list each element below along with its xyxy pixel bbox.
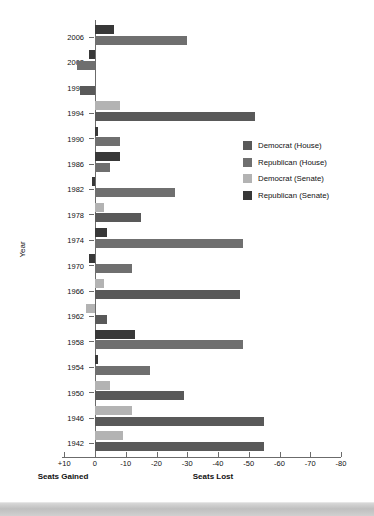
bar-dem_house-1946 <box>95 417 264 426</box>
legend-item: Democrat (Senate) <box>243 173 371 184</box>
x-tick-label: -70 <box>295 459 325 468</box>
bar-dem_house-1950 <box>95 391 184 400</box>
x-axis-line <box>62 457 341 458</box>
bar-dem_senate-1966 <box>95 279 104 288</box>
bar-dem_house-1966 <box>95 290 240 299</box>
y-axis-tick-label: 2006 <box>38 33 84 42</box>
bar-rep_house-1986 <box>95 163 110 172</box>
y-tick <box>89 214 94 215</box>
x-tick-label: -80 <box>326 459 356 468</box>
y-tick <box>89 418 94 419</box>
x-tick <box>218 452 219 457</box>
x-tick <box>157 452 158 457</box>
footer-band <box>0 503 374 516</box>
bar-dem_house-1962 <box>95 315 107 324</box>
legend-item: Republican (House) <box>243 157 371 168</box>
y-axis-tick-label: 1950 <box>38 389 84 398</box>
bar-dem_house-1994 <box>95 112 255 121</box>
bar-rep_house-1990 <box>95 137 120 146</box>
y-axis-tick-label: 1982 <box>38 185 84 194</box>
bar-rep_senate-1970 <box>89 254 95 263</box>
midterm-seat-change-chart: +100-10-20-30-40-50-60-70-80 20062002199… <box>0 0 374 516</box>
bar-rep_senate-2002 <box>89 50 95 59</box>
bar-dem_senate-1962 <box>86 304 95 313</box>
y-tick <box>89 316 94 317</box>
bar-rep_senate-1954 <box>95 355 98 364</box>
bar-rep_house-1958 <box>95 340 243 349</box>
legend: Democrat (House)Republican (House)Democr… <box>243 140 371 206</box>
x-tick-label: -30 <box>172 459 202 468</box>
y-axis-tick-label: 1990 <box>38 135 84 144</box>
bar-rep_senate-2006 <box>95 25 114 34</box>
y-axis-tick-label: 1998 <box>38 84 84 93</box>
seats-gained-note: Seats Gained <box>20 472 106 481</box>
y-tick <box>89 189 94 190</box>
legend-swatch-icon <box>243 141 252 150</box>
y-axis-tick-label: 1962 <box>38 312 84 321</box>
y-axis-tick-label: 1994 <box>38 109 84 118</box>
x-tick-label: 0 <box>80 459 110 468</box>
x-tick <box>126 452 127 457</box>
bar-dem_house-1942 <box>95 442 264 451</box>
y-tick <box>89 341 94 342</box>
x-tick-label: -40 <box>203 459 233 468</box>
y-tick <box>89 37 94 38</box>
y-axis-tick-label: 1986 <box>38 160 84 169</box>
legend-label: Democrat (Senate) <box>258 174 324 183</box>
bar-dem_senate-1946 <box>95 406 132 415</box>
y-axis-tick-label: 1946 <box>38 414 84 423</box>
legend-label: Republican (Senate) <box>258 191 329 200</box>
bar-rep_house-2006 <box>95 36 187 45</box>
bar-dem_senate-1950 <box>95 381 110 390</box>
bar-rep_house-2002 <box>77 61 96 70</box>
legend-swatch-icon <box>243 174 252 183</box>
y-axis-tick-label: 1942 <box>38 439 84 448</box>
bar-dem_house-1978 <box>95 213 141 222</box>
y-axis-tick-label: 1958 <box>38 338 84 347</box>
legend-swatch-icon <box>243 158 252 167</box>
y-tick <box>89 240 94 241</box>
x-tick-label: +10 <box>49 459 79 468</box>
bar-dem_house-1998 <box>80 86 95 95</box>
y-axis-tick-label: 1978 <box>38 211 84 220</box>
legend-item: Republican (Senate) <box>243 190 371 201</box>
y-axis-tick-label: 1970 <box>38 262 84 271</box>
y-axis-title: Year <box>18 220 27 280</box>
bar-rep_house-1982 <box>95 188 175 197</box>
bar-rep_house-1970 <box>95 264 132 273</box>
x-tick <box>310 452 311 457</box>
bar-rep_house-1954 <box>95 366 150 375</box>
y-axis-tick-label: 1966 <box>38 287 84 296</box>
y-tick <box>89 367 94 368</box>
y-tick <box>89 265 94 266</box>
bar-dem_senate-1978 <box>95 203 104 212</box>
x-tick-label: -60 <box>265 459 295 468</box>
x-tick <box>95 452 96 457</box>
bar-rep_senate-1982 <box>92 177 95 186</box>
seats-lost-note: Seats Lost <box>170 472 256 481</box>
bar-rep_senate-1990 <box>95 127 98 136</box>
y-tick <box>89 392 94 393</box>
y-tick <box>89 443 94 444</box>
x-tick <box>249 452 250 457</box>
y-tick <box>89 113 94 114</box>
bar-dem_senate-1942 <box>95 431 123 440</box>
x-tick-label: -20 <box>142 459 172 468</box>
plot-area <box>95 20 341 453</box>
legend-item: Democrat (House) <box>243 140 371 151</box>
bar-rep_senate-1958 <box>95 330 135 339</box>
x-tick <box>64 452 65 457</box>
legend-swatch-icon <box>243 191 252 200</box>
y-axis-tick-label: 1974 <box>38 236 84 245</box>
x-tick-label: -50 <box>234 459 264 468</box>
bar-rep_senate-1986 <box>95 152 120 161</box>
x-tick-label: -10 <box>111 459 141 468</box>
y-tick <box>89 138 94 139</box>
x-tick <box>341 452 342 457</box>
bar-rep_house-1974 <box>95 239 243 248</box>
y-axis-tick-label: 1954 <box>38 363 84 372</box>
x-tick <box>280 452 281 457</box>
bar-rep_senate-1974 <box>95 228 107 237</box>
bar-dem_senate-1994 <box>95 101 120 110</box>
legend-label: Republican (House) <box>258 158 327 167</box>
